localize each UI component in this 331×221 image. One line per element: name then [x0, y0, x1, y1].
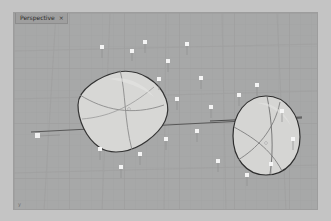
tab-perspective-label: Perspective — [20, 15, 55, 21]
perspective-viewport[interactable]: Perspective × y — [13, 12, 318, 210]
surface-blob-left[interactable] — [78, 70, 168, 152]
surface-egg-right-center-point — [265, 142, 268, 145]
surface-egg-right[interactable] — [233, 96, 300, 175]
surface-blob-left-center-point — [128, 108, 131, 111]
app-root: Perspective × y — [0, 0, 331, 221]
tab-perspective[interactable]: Perspective × — [15, 13, 68, 24]
axis-corner-label: y — [18, 201, 21, 207]
close-icon[interactable]: × — [59, 15, 64, 21]
scene-geometry[interactable] — [14, 13, 318, 210]
surface-egg-right-outline — [233, 96, 300, 175]
